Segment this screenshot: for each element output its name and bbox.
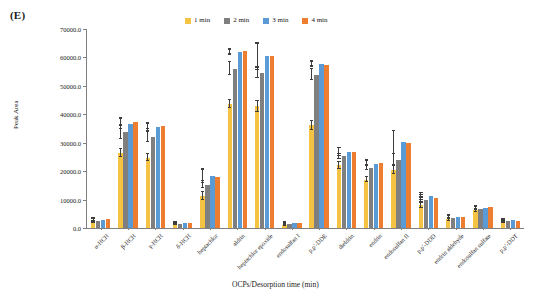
error-bar-cap <box>228 99 231 100</box>
error-bar-cap <box>228 107 231 108</box>
bar <box>314 75 318 229</box>
error-bar-cap <box>173 224 176 225</box>
bar <box>297 223 301 228</box>
x-axis-tick-mark <box>401 228 402 230</box>
error-bar-cap <box>146 141 149 142</box>
x-axis-category-label: heptachlor <box>195 232 218 255</box>
bar <box>379 163 383 228</box>
bar <box>451 218 455 228</box>
error-bar-cap <box>173 223 176 224</box>
legend-entry: 3 min <box>263 17 288 24</box>
y-axis-tick-mark <box>83 228 86 229</box>
bar <box>347 152 351 228</box>
error-bar-cap <box>119 128 122 129</box>
bar <box>434 198 438 228</box>
error-bar-cap <box>419 192 422 193</box>
bar <box>429 196 433 228</box>
error-bar-cap <box>255 77 258 78</box>
figure-panel-E: (E) 1 min2 min3 min4 min Peak Area OCPs/… <box>0 0 533 304</box>
error-bar-cap <box>119 156 122 157</box>
error-bar-cap <box>283 225 286 226</box>
y-axis-tick-mark <box>83 57 86 58</box>
bar <box>260 73 264 229</box>
x-axis-tick-mark <box>128 228 129 230</box>
x-axis-category-label: p,p'-DDT <box>498 232 520 254</box>
error-bar-cap <box>392 130 395 131</box>
x-axis-tick-mark <box>510 228 511 230</box>
bar <box>391 170 395 228</box>
bar-group <box>473 29 492 228</box>
error-bar-cap <box>419 207 422 208</box>
error-bar-cap <box>447 220 450 221</box>
bar <box>123 132 127 228</box>
bar-group <box>419 29 438 228</box>
bar <box>205 185 209 228</box>
error-bar-cap <box>447 218 450 219</box>
error-bar-cap <box>91 222 94 223</box>
bar <box>406 143 410 228</box>
error-bar-cap <box>119 138 122 139</box>
legend-label: 1 min <box>194 17 210 24</box>
bar <box>133 122 137 228</box>
error-bar-cap <box>228 61 231 62</box>
bar <box>456 217 460 228</box>
error-bar-cap <box>419 201 422 202</box>
y-axis-tick-label: 10000.0 <box>60 196 81 203</box>
error-bar-cap <box>310 68 313 69</box>
x-axis-category-label: p,p'-DDE <box>306 232 328 254</box>
bar <box>483 208 487 228</box>
bar <box>352 152 356 228</box>
legend-swatch-icon <box>302 18 308 24</box>
error-bar-cap <box>474 205 477 206</box>
bar <box>161 126 165 228</box>
bar-group <box>255 29 274 228</box>
error-bar-cap <box>201 169 204 170</box>
error-bar-cap <box>337 155 340 156</box>
x-axis-category-label: δ-HCH <box>174 232 192 250</box>
error-bar-cap <box>392 153 395 154</box>
bar-group <box>118 29 137 228</box>
legend-entry: 4 min <box>302 17 327 24</box>
x-axis-tick-mark <box>155 228 156 230</box>
bar-group <box>337 29 356 228</box>
bar <box>401 142 405 228</box>
x-axis-tick-mark <box>319 228 320 230</box>
error-bar-cap <box>310 79 313 80</box>
error-bar <box>393 131 394 154</box>
bar <box>156 127 160 228</box>
error-bar-cap <box>255 42 258 43</box>
legend-entry: 1 min <box>185 17 210 24</box>
y-axis-tick-label: 50000.0 <box>60 82 81 89</box>
x-axis-tick-mark <box>265 228 266 230</box>
bar <box>419 205 423 228</box>
legend-label: 2 min <box>233 17 249 24</box>
error-bar <box>257 43 258 70</box>
bar-group <box>228 29 247 228</box>
error-bar-cap <box>365 169 368 170</box>
error-bar-cap <box>365 165 368 166</box>
x-axis-tick-mark <box>374 228 375 230</box>
error-bar-cap <box>146 130 149 131</box>
bar-group <box>364 29 383 228</box>
bar <box>396 160 400 228</box>
legend-label: 3 min <box>272 17 288 24</box>
bar <box>96 221 100 228</box>
y-axis-tick-mark <box>83 86 86 87</box>
x-axis-category-label: endrin <box>367 232 383 248</box>
y-axis-title: Peak Area <box>12 100 20 129</box>
x-axis-category-label: β-HCH <box>119 232 137 250</box>
bar <box>243 51 247 228</box>
bar <box>233 69 237 228</box>
error-bar-cap <box>201 199 204 200</box>
legend-label: 4 min <box>311 17 327 24</box>
legend-swatch-icon <box>224 18 230 24</box>
error-bar-cap <box>119 125 122 126</box>
error-bar-cap <box>310 129 313 130</box>
error-bar-cap <box>310 120 313 121</box>
error-bar-cap <box>365 181 368 182</box>
error-bar-cap <box>201 182 204 183</box>
bar-group <box>501 29 520 228</box>
y-axis-tick-label: 40000.0 <box>60 111 81 118</box>
error-bar-cap <box>146 160 149 161</box>
x-axis-category-label: α-HCH <box>92 232 110 250</box>
